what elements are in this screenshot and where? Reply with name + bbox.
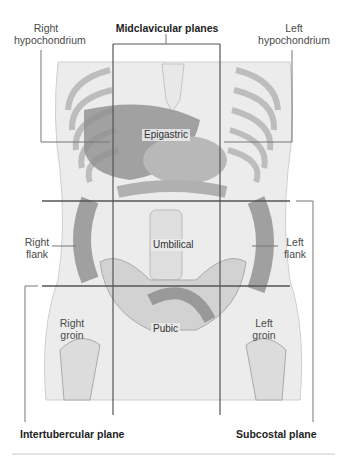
descending-colon xyxy=(256,200,265,290)
label-right-hypochondrium: Right hypochondrium xyxy=(14,22,78,46)
label-midclavicular-planes: Midclavicular planes xyxy=(106,22,228,34)
label-umbilical: Umbilical xyxy=(151,239,196,251)
label-left-groin: Left groin xyxy=(248,317,280,341)
bottom-divider xyxy=(12,453,335,455)
label-intertubercular-plane: Intertubercular plane xyxy=(20,428,124,440)
ascending-colon xyxy=(82,200,90,280)
small-intestine xyxy=(118,186,226,192)
label-right-flank: Right flank xyxy=(22,236,52,260)
label-left-hypochondrium: Left hypochondrium xyxy=(254,22,334,46)
label-epigastric: Epigastric xyxy=(142,129,190,141)
label-subcostal-plane: Subcostal plane xyxy=(236,428,317,440)
label-right-groin: Right groin xyxy=(56,317,88,341)
label-left-flank: Left flank xyxy=(280,236,310,260)
stomach xyxy=(143,136,227,184)
label-pubic: Pubic xyxy=(151,323,180,335)
abdomen-illustration xyxy=(0,0,347,456)
